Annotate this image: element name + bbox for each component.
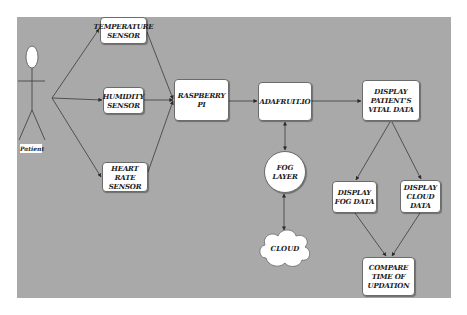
heart-rate-sensor-node: HEART RATE SENSOR bbox=[102, 162, 148, 192]
display-vital-data-node: DISPLAY PATIENT'S VITAL DATA bbox=[362, 80, 420, 121]
compare-time-node: COMPARE TIME OF UPDATION bbox=[362, 257, 415, 296]
cloud-label: CLOUD bbox=[266, 244, 304, 253]
temperature-sensor-node: TEMPERATURE SENSOR bbox=[100, 17, 147, 44]
humidity-sensor-node: HUMIDITY SENSOR bbox=[103, 87, 144, 114]
fog-layer-node: FOG LAYER bbox=[264, 151, 306, 193]
adafruit-io-node: ADAFRUIT.IO bbox=[258, 82, 312, 121]
display-cloud-data-node: DISPLAY CLOUD DATA bbox=[400, 180, 441, 213]
patient-label: Patient bbox=[20, 144, 42, 153]
display-fog-data-node: DISPLAY FOG DATA bbox=[332, 181, 377, 213]
raspberry-pi-node: RASPBERRY PI bbox=[174, 79, 229, 121]
